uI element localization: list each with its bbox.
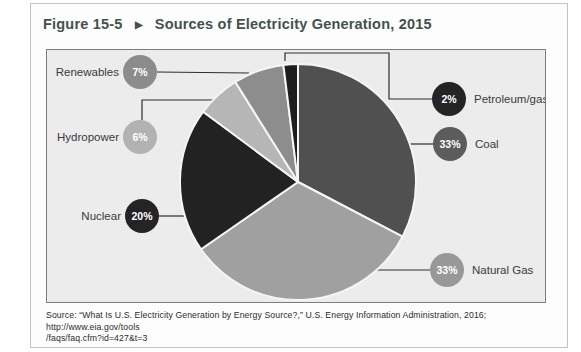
value-label-hydropower: 6%: [132, 131, 148, 143]
pie-chart-box: 33%Coal33%Natural Gas20%Nuclear6%Hydropo…: [46, 49, 546, 303]
figure-title: Figure 15-5▶Sources of Electricity Gener…: [43, 16, 432, 32]
category-label-renewables: Renewables: [56, 66, 120, 78]
category-label-petroleum-gas: Petroleum/gas: [474, 93, 545, 105]
source-line-2: /faqs/faq.cfm?id=427&t=3: [46, 333, 558, 345]
category-label-hydropower: Hydropower: [57, 131, 119, 143]
category-label-nuclear: Nuclear: [81, 210, 121, 222]
category-label-natural-gas: Natural Gas: [472, 264, 534, 276]
value-label-coal: 33%: [439, 138, 461, 150]
value-label-petroleum-gas: 2%: [441, 93, 457, 105]
figure-arrow-icon: ▶: [135, 19, 143, 30]
source-citation: Source: “What Is U.S. Electricity Genera…: [46, 310, 558, 345]
value-label-nuclear: 20%: [131, 210, 153, 222]
figure-panel: Figure 15-5▶Sources of Electricity Gener…: [30, 3, 568, 348]
value-label-natural-gas: 33%: [436, 264, 458, 276]
leader-line-renewables: [157, 72, 249, 73]
category-label-coal: Coal: [475, 138, 499, 150]
figure-title-text: Sources of Electricity Generation, 2015: [155, 16, 432, 32]
value-label-renewables: 7%: [132, 66, 148, 78]
figure-label: Figure 15-5: [43, 16, 123, 32]
pie-chart: 33%Coal33%Natural Gas20%Nuclear6%Hydropo…: [47, 50, 545, 302]
source-line-1: Source: “What Is U.S. Electricity Genera…: [46, 310, 558, 333]
